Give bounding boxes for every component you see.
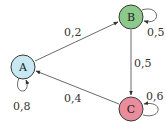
edge-label-b-to-c: 0,5 <box>134 57 152 70</box>
node-b-label: B <box>127 11 135 24</box>
edge-label-a-to-b: 0,2 <box>64 26 82 39</box>
self-loop-b <box>142 9 157 22</box>
edge-label-a-to-a: 0,8 <box>13 100 31 113</box>
edge-label-c-to-c: 0,6 <box>146 90 164 103</box>
node-b: B <box>119 5 143 29</box>
self-loop-c <box>143 103 158 115</box>
node-a: A <box>11 55 35 79</box>
edge-label-c-to-a: 0,4 <box>64 92 82 105</box>
edge-label-b-to-b: 0,5 <box>147 26 165 39</box>
self-loop-a <box>17 78 27 91</box>
node-a-label: A <box>18 61 28 74</box>
node-c: C <box>119 97 143 121</box>
node-c-label: C <box>127 103 135 116</box>
markov-diagram: 0,2 0,5 0,4 0,8 0,5 0,6 A B C <box>0 0 166 123</box>
